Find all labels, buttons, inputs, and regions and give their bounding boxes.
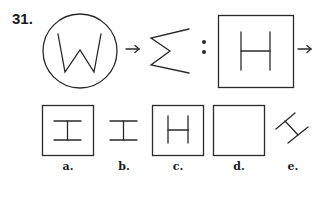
colon-separator bbox=[202, 40, 206, 54]
arrow-right-icon bbox=[126, 46, 139, 53]
option-e-figure bbox=[276, 113, 308, 143]
option-a-figure bbox=[43, 106, 94, 156]
option-b-figure bbox=[110, 121, 137, 140]
option-a-label[interactable]: a. bbox=[53, 160, 83, 173]
option-c-figure bbox=[153, 106, 204, 156]
arrow-right-icon bbox=[298, 46, 311, 53]
option-c-label[interactable]: c. bbox=[163, 160, 193, 173]
option-e-label[interactable]: e. bbox=[278, 160, 308, 173]
option-b-label[interactable]: b. bbox=[109, 160, 139, 173]
sideways-w-shape bbox=[151, 29, 189, 73]
square-h-figure bbox=[219, 16, 294, 88]
option-d-label[interactable]: d. bbox=[224, 160, 254, 173]
circle-w-figure bbox=[43, 14, 117, 88]
analogy-figure bbox=[0, 0, 312, 199]
option-d-figure bbox=[214, 106, 265, 156]
w-letter-shape bbox=[58, 34, 101, 72]
